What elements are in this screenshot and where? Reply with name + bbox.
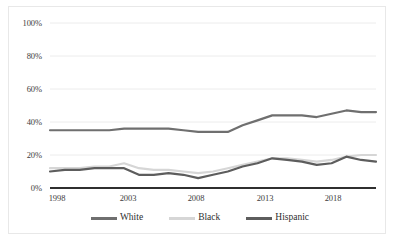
- xtick-label-2008: 2008: [176, 194, 216, 203]
- xtick-label-2003: 2003: [108, 194, 148, 203]
- series-line-white: [50, 110, 376, 131]
- legend-item-white[interactable]: White: [91, 213, 143, 223]
- chart-legend: White Black Hispanic: [50, 210, 350, 226]
- ytick-label-40: 40%: [8, 118, 42, 127]
- series-lines: [50, 110, 376, 178]
- ytick-label-0: 0%: [8, 184, 42, 193]
- ytick-label-100: 100%: [8, 19, 42, 28]
- legend-swatch-hispanic: [246, 217, 272, 220]
- legend-item-black[interactable]: Black: [169, 213, 220, 223]
- plot-area: [0, 0, 396, 244]
- ytick-label-60: 60%: [8, 85, 42, 94]
- legend-label-white: White: [120, 213, 143, 223]
- xtick-label-2018: 2018: [313, 194, 353, 203]
- xtick-label-2013: 2013: [245, 194, 285, 203]
- xtick-label-1998: 1998: [37, 194, 77, 203]
- legend-swatch-white: [91, 217, 117, 220]
- legend-label-black: Black: [198, 213, 220, 223]
- ytick-label-20: 20%: [8, 151, 42, 160]
- line-chart: 100% 80% 60% 40% 20% 0% 1998 2003 2008 2…: [0, 0, 396, 244]
- legend-swatch-black: [169, 217, 195, 220]
- gridlines: [50, 23, 376, 155]
- legend-item-hispanic[interactable]: Hispanic: [246, 213, 309, 223]
- ytick-label-80: 80%: [8, 52, 42, 61]
- legend-label-hispanic: Hispanic: [275, 213, 309, 223]
